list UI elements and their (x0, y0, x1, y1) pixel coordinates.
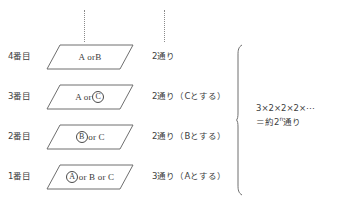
diagram-row-4: 4番目 A or B 2通り (0, 42, 340, 72)
dotted-continuation-line-left (84, 10, 85, 42)
grouping-brace (236, 44, 250, 196)
option-suffix-2: or C (88, 132, 105, 142)
option-prefix-3: A or (75, 92, 92, 102)
option-suffix-1: or B or C (79, 172, 115, 182)
row-count-label-1: 3通り（Aとする） (152, 169, 226, 181)
total-count-formula: 3×2×2×2×⋯ ＝約2n通り (256, 101, 340, 129)
formula-line-1: 3×2×2×2×⋯ (256, 103, 315, 113)
row-order-label-2: 2番目 (8, 129, 48, 141)
row-order-label-1: 1番目 (8, 169, 48, 181)
circled-letter-2: B (76, 131, 88, 143)
option-letter-4: B (95, 52, 101, 62)
row-order-label-3: 3番目 (8, 89, 48, 101)
formula-line2-suffix: 通り (283, 117, 301, 127)
formula-line2-prefix: ＝約2 (256, 117, 279, 127)
circled-letter-3: C (92, 91, 104, 103)
diagram-canvas: 4番目 A or B 2通り 3番目 A or C 2通り（Cとする） 2番目 (0, 0, 340, 210)
option-prefix-4: A or (79, 52, 96, 62)
row-count-label-3: 2通り（Cとする） (152, 89, 226, 101)
circled-letter-1: A (66, 171, 78, 183)
parallelogram-text-1: A or B or C (46, 163, 134, 191)
dotted-continuation-line-right (164, 10, 165, 42)
row-count-label-2: 2通り（Bとする） (152, 129, 226, 141)
parallelogram-text-4: A or B (46, 43, 134, 71)
row-count-label-4: 2通り (152, 49, 175, 61)
parallelogram-text-2: B or C (46, 123, 134, 151)
formula-line-2: ＝約2n通り (256, 115, 340, 129)
diagram-row-1: 1番目 A or B or C 3通り（Aとする） (0, 162, 340, 192)
parallelogram-text-3: A or C (46, 83, 134, 111)
row-order-label-4: 4番目 (8, 49, 48, 61)
